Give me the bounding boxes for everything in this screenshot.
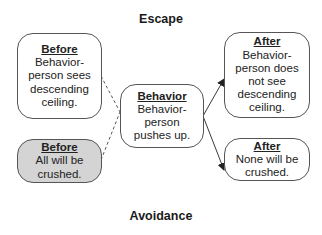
box-heading: Before bbox=[22, 43, 97, 56]
before-escape-box: Before Behavior- person sees descending … bbox=[17, 33, 102, 119]
arrow-to-after-avoidance bbox=[203, 116, 224, 170]
after-avoidance-box: After None will be crushed. bbox=[224, 138, 310, 181]
after-escape-box: After Behavior- person does not see desc… bbox=[224, 32, 310, 118]
box-heading: After bbox=[229, 140, 305, 153]
box-text: Behavior- person does not see descending… bbox=[229, 49, 305, 115]
box-heading: Before bbox=[22, 141, 97, 154]
box-text: None will be crushed. bbox=[229, 153, 305, 179]
before-avoidance-box: Before All will be crushed. bbox=[17, 139, 102, 183]
arrow-to-after-escape bbox=[203, 79, 224, 116]
box-text: Behavior- person pushes up. bbox=[125, 103, 199, 143]
box-text: All will be crushed. bbox=[22, 154, 97, 180]
dashed-connector-avoidance bbox=[101, 112, 120, 160]
box-heading: After bbox=[229, 35, 305, 48]
behavior-box: Behavior Behavior- person pushes up. bbox=[120, 84, 204, 148]
box-text: Behavior- person sees descending ceiling… bbox=[22, 56, 97, 109]
dashed-connector-escape bbox=[101, 76, 120, 112]
box-heading: Behavior bbox=[125, 90, 199, 103]
